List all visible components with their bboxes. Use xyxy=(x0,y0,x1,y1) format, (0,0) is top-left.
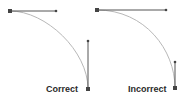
correct-label: Correct xyxy=(46,84,78,94)
incorrect-label: Incorrect xyxy=(128,84,167,94)
bezier-handles-diagram: Correct Incorrect xyxy=(0,0,179,104)
start-handle-tip xyxy=(55,10,58,13)
incorrect-example: Incorrect xyxy=(95,8,177,94)
bezier-curve xyxy=(97,10,175,88)
end-handle-tip xyxy=(87,40,90,43)
bezier-curve xyxy=(10,11,88,89)
start-handle-tip xyxy=(165,9,168,12)
start-anchor-point xyxy=(8,9,12,13)
end-anchor-point xyxy=(173,86,177,90)
start-anchor-point xyxy=(95,8,99,12)
end-handle-tip xyxy=(174,61,177,64)
end-anchor-point xyxy=(86,87,90,91)
correct-example: Correct xyxy=(8,9,90,94)
